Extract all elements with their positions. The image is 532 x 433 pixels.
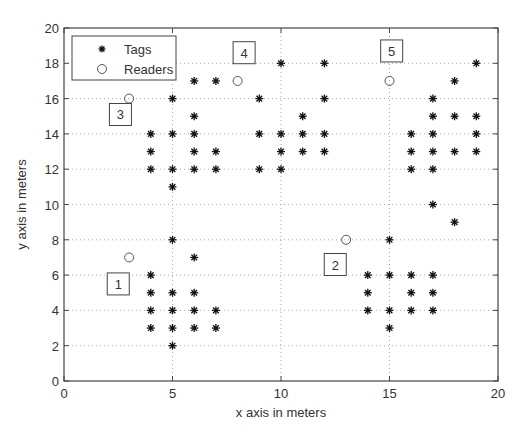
tag-marker bbox=[147, 271, 155, 279]
tag-marker bbox=[147, 306, 155, 314]
tag-marker bbox=[212, 148, 220, 156]
y-tick-label: 8 bbox=[52, 233, 59, 248]
tag-marker bbox=[147, 324, 155, 332]
tag-marker bbox=[147, 130, 155, 138]
tag-marker bbox=[190, 306, 198, 314]
tag-marker bbox=[429, 130, 437, 138]
tag-marker bbox=[169, 183, 177, 191]
tag-marker bbox=[472, 112, 480, 120]
tag-marker bbox=[472, 148, 480, 156]
tag-marker bbox=[386, 324, 394, 332]
legend: TagsReaders bbox=[72, 36, 176, 80]
cluster-label-text: 4 bbox=[240, 46, 247, 61]
y-tick-label: 20 bbox=[45, 21, 59, 36]
tag-marker bbox=[190, 324, 198, 332]
tag-marker bbox=[212, 165, 220, 173]
tag-marker bbox=[255, 95, 263, 103]
x-tick-label: 5 bbox=[169, 386, 176, 401]
tag-marker bbox=[277, 165, 285, 173]
tag-marker bbox=[472, 130, 480, 138]
scatter-chart: 0510152002468101214161820 12345 TagsRead… bbox=[0, 0, 532, 433]
tag-marker bbox=[429, 95, 437, 103]
tag-marker bbox=[169, 306, 177, 314]
tag-marker bbox=[277, 148, 285, 156]
y-axis-label: y axis in meters bbox=[14, 159, 29, 250]
tag-marker bbox=[429, 148, 437, 156]
tag-marker bbox=[169, 289, 177, 297]
tag-marker bbox=[169, 95, 177, 103]
tag-marker bbox=[429, 201, 437, 209]
tag-marker bbox=[169, 130, 177, 138]
tag-marker bbox=[190, 165, 198, 173]
tag-marker bbox=[147, 289, 155, 297]
cluster-label: 3 bbox=[109, 103, 131, 125]
reader-marker bbox=[342, 235, 351, 244]
tag-marker bbox=[386, 306, 394, 314]
y-tick-label: 10 bbox=[45, 198, 59, 213]
x-axis-label: x axis in meters bbox=[236, 405, 327, 420]
cluster-label-text: 3 bbox=[117, 107, 124, 122]
tag-marker bbox=[407, 165, 415, 173]
tag-marker bbox=[190, 112, 198, 120]
tag-marker bbox=[212, 306, 220, 314]
tag-marker bbox=[320, 130, 328, 138]
tag-marker bbox=[320, 148, 328, 156]
tag-marker bbox=[364, 289, 372, 297]
x-tick-label: 15 bbox=[382, 386, 396, 401]
cluster-label: 1 bbox=[107, 273, 129, 295]
tag-marker bbox=[255, 130, 263, 138]
tag-marker bbox=[169, 165, 177, 173]
tag-marker bbox=[299, 130, 307, 138]
tag-marker bbox=[429, 271, 437, 279]
tag-marker bbox=[147, 148, 155, 156]
tag-marker bbox=[99, 46, 106, 53]
y-tick-label: 12 bbox=[45, 162, 59, 177]
tag-marker bbox=[277, 59, 285, 67]
tag-marker bbox=[320, 59, 328, 67]
legend-entry-label: Readers bbox=[124, 62, 174, 77]
tag-marker bbox=[169, 342, 177, 350]
tag-marker bbox=[429, 306, 437, 314]
tag-marker bbox=[212, 77, 220, 85]
tag-marker bbox=[451, 77, 459, 85]
tag-marker bbox=[190, 289, 198, 297]
tag-marker bbox=[429, 289, 437, 297]
tag-marker bbox=[169, 324, 177, 332]
tag-marker bbox=[407, 289, 415, 297]
x-tick-label: 10 bbox=[274, 386, 288, 401]
reader-marker bbox=[125, 253, 134, 262]
tag-marker bbox=[451, 148, 459, 156]
tag-marker bbox=[299, 112, 307, 120]
tag-marker bbox=[147, 165, 155, 173]
y-tick-label: 4 bbox=[52, 303, 59, 318]
tag-marker bbox=[190, 148, 198, 156]
tag-marker bbox=[169, 236, 177, 244]
y-tick-label: 6 bbox=[52, 268, 59, 283]
cluster-label-text: 1 bbox=[115, 277, 122, 292]
y-tick-label: 2 bbox=[52, 339, 59, 354]
cluster-label: 2 bbox=[324, 254, 346, 276]
reader-marker bbox=[233, 76, 242, 85]
cluster-label: 4 bbox=[233, 42, 255, 64]
tag-marker bbox=[190, 253, 198, 261]
tag-marker bbox=[190, 130, 198, 138]
tag-marker bbox=[212, 324, 220, 332]
tag-marker bbox=[277, 130, 285, 138]
tag-marker bbox=[407, 130, 415, 138]
tag-marker bbox=[190, 77, 198, 85]
tag-marker bbox=[364, 306, 372, 314]
tag-marker bbox=[429, 112, 437, 120]
x-tick-label: 0 bbox=[60, 386, 67, 401]
tag-marker bbox=[407, 148, 415, 156]
tag-marker bbox=[299, 148, 307, 156]
tag-marker bbox=[364, 271, 372, 279]
cluster-label: 5 bbox=[381, 40, 403, 62]
cluster-label-text: 5 bbox=[388, 44, 395, 59]
tag-marker bbox=[407, 271, 415, 279]
tag-marker bbox=[320, 95, 328, 103]
tag-marker bbox=[451, 218, 459, 226]
y-tick-label: 14 bbox=[45, 127, 59, 142]
cluster-label-text: 2 bbox=[332, 258, 339, 273]
y-tick-label: 16 bbox=[45, 92, 59, 107]
y-tick-label: 18 bbox=[45, 56, 59, 71]
